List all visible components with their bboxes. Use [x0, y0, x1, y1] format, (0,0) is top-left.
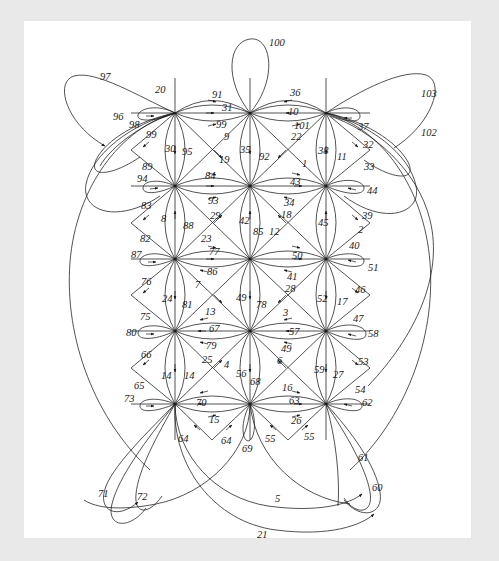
edge-label: 11 — [337, 152, 347, 163]
head-loop — [232, 39, 269, 113]
edge-label: 77 — [209, 247, 220, 258]
edge-label: 31 — [222, 103, 233, 114]
edge-label: 22 — [291, 132, 302, 143]
edge-label: 103 — [421, 89, 437, 100]
edge-label: 95 — [182, 147, 193, 158]
edge-label: 34 — [284, 198, 295, 209]
edge-label: 5 — [275, 494, 280, 505]
edge-label: 12 — [269, 227, 280, 238]
edge-label: 55 — [304, 432, 315, 443]
edge-label: 2 — [358, 225, 363, 236]
edge-label: 51 — [368, 263, 379, 274]
edge-label: 52 — [317, 294, 328, 305]
edge-label: 60 — [372, 483, 383, 494]
edge-label: 81 — [182, 300, 193, 311]
edge-label: 46 — [355, 285, 366, 296]
edge-label: 19 — [219, 155, 230, 166]
edge-label: 67 — [209, 324, 220, 335]
edge-label: 45 — [318, 218, 329, 229]
edge-label: 1 — [302, 159, 307, 170]
edge-label: 36 — [290, 88, 301, 99]
edge-label: 10 — [288, 107, 299, 118]
edge-label: 76 — [141, 277, 152, 288]
edge-label: 64 — [221, 436, 232, 447]
edge-label: 3 — [283, 308, 288, 319]
edge-label: 17 — [337, 297, 348, 308]
edge-label: 43 — [290, 177, 301, 188]
edge-label: 42 — [239, 216, 250, 227]
edge-label: 20 — [155, 85, 166, 96]
edge-label: 55 — [265, 434, 276, 445]
right-rear-flipper — [326, 404, 380, 513]
edge-label: 18 — [281, 210, 292, 221]
right-front-flipper — [326, 74, 435, 386]
edge-label: 91 — [212, 90, 223, 101]
left-front-flipper — [64, 75, 175, 212]
edge-label: 78 — [256, 300, 267, 311]
edge-label: 41 — [287, 272, 298, 283]
edge-label: 94 — [137, 174, 148, 185]
edge-label: 59 — [314, 365, 325, 376]
edge-label: 49 — [281, 344, 292, 355]
edge-label: 23 — [201, 234, 212, 245]
edge-label: 63 — [289, 396, 300, 407]
edge-label: 97 — [100, 72, 111, 83]
edge-label: 73 — [124, 394, 135, 405]
edge-label: 28 — [285, 284, 296, 295]
edge-label: 15 — [209, 415, 220, 426]
edge-label: 38 — [318, 146, 329, 157]
edge-label: 16 — [282, 383, 293, 394]
edge-label: 68 — [250, 377, 261, 388]
edge-label: 101 — [294, 121, 310, 132]
edge-label: 92 — [259, 152, 270, 163]
left-rear-flipper — [104, 404, 175, 523]
edge-label: 57 — [289, 327, 300, 338]
edge-label: 56 — [236, 369, 247, 380]
edge-label: 35 — [240, 145, 251, 156]
graph-svg — [0, 0, 499, 561]
edge-label: 72 — [137, 492, 148, 503]
edge-label: 99 — [216, 120, 227, 131]
edge-label: 69 — [242, 444, 253, 455]
edge-label: 25 — [202, 355, 213, 366]
edge-label: 30 — [165, 144, 176, 155]
edge-label: 50 — [292, 251, 303, 262]
edge-label: 39 — [362, 211, 373, 222]
edge-label: 79 — [206, 341, 217, 352]
edge-label: 75 — [140, 312, 151, 323]
edge-label: 62 — [362, 398, 373, 409]
edge-label: 54 — [355, 385, 366, 396]
edge-label: 71 — [98, 489, 109, 500]
page-background: 1009720913610396311098999910137102922309… — [0, 0, 499, 561]
turtle-graph-figure: 1009720913610396311098999910137102922309… — [0, 0, 499, 561]
edge-label: 84 — [205, 171, 216, 182]
edge-label: 86 — [207, 267, 218, 278]
edge-label: 21 — [257, 530, 268, 541]
edge-label: 65 — [134, 381, 145, 392]
edge-label: 70 — [196, 398, 207, 409]
edge-label: 83 — [141, 201, 152, 212]
edge-label: 53 — [358, 357, 369, 368]
edge-label: 99 — [146, 130, 157, 141]
edge-label: 89 — [142, 162, 153, 173]
edge-label: 32 — [363, 140, 374, 151]
edge-label: 85 — [253, 227, 264, 238]
edge-label: 26 — [291, 416, 302, 427]
edge-label: 24 — [162, 294, 173, 305]
edge-label: 100 — [269, 38, 285, 49]
edge-label: 87 — [131, 250, 142, 261]
edge-label: 4 — [224, 360, 229, 371]
edge-label: 27 — [333, 370, 344, 381]
edge-label: 49 — [236, 293, 247, 304]
edge-label: 82 — [140, 234, 151, 245]
edge-label: 96 — [113, 112, 124, 123]
edge-label: 7 — [195, 280, 200, 291]
edge-label: 40 — [349, 241, 360, 252]
edge-label: 13 — [205, 307, 216, 318]
edge-label: 58 — [368, 329, 379, 340]
edge-label: 44 — [367, 186, 378, 197]
edge-label: 33 — [364, 162, 375, 173]
edge-label: 29 — [210, 211, 221, 222]
edge-label: 8 — [161, 214, 166, 225]
edge-label: 37 — [358, 122, 369, 133]
